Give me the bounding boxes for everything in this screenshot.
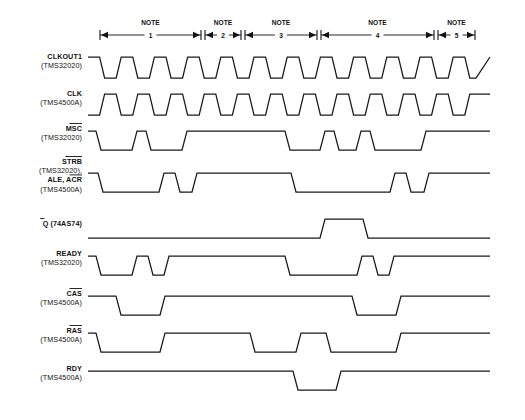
signal-name: CLKOUT1: [47, 52, 82, 61]
signal-device: (TMS4500A): [40, 335, 82, 344]
signal-device: (TMS4500A): [40, 298, 82, 307]
note-number: 4: [376, 32, 380, 39]
note-arrow-right: [309, 32, 316, 38]
note-number: 2: [221, 32, 225, 39]
note-marker-5: NOTE5: [438, 19, 475, 40]
signal-name: READY: [56, 249, 82, 258]
signal-device: (TMS32020): [41, 61, 82, 70]
note-marker-1: NOTE1: [100, 19, 201, 40]
signal-name: RDY: [67, 364, 83, 373]
signal-label-strb: STRB(TMS32020),ALE, ACR(TMS4500A): [39, 157, 83, 194]
note-arrow-left: [439, 32, 446, 38]
note-marker-4: NOTE4: [321, 19, 434, 40]
waveforms-group: [88, 57, 490, 390]
note-arrow-right: [426, 32, 433, 38]
note-arrow-right: [193, 32, 200, 38]
note-arrow-right: [467, 32, 474, 38]
waveform-cas: [88, 296, 490, 315]
signal-name: RAS: [67, 326, 83, 335]
signal-name-alt: ALE, ACR: [48, 175, 83, 184]
note-label: NOTE: [141, 19, 160, 26]
waveform-qbar: [88, 219, 490, 238]
signal-device: (TMS32020): [41, 133, 82, 142]
signal-name: Q (74AS74): [43, 219, 83, 228]
note-marker-2: NOTE2: [205, 19, 241, 40]
signal-label-clkout1: CLKOUT1(TMS32020): [41, 52, 82, 70]
waveform-rdy: [88, 371, 490, 390]
signal-device: (TMS32020): [41, 258, 82, 267]
signal-label-cas: CAS(TMS4500A): [40, 289, 82, 308]
note-label: NOTE: [272, 19, 291, 26]
note-arrow-right: [233, 32, 240, 38]
signal-name: STRB: [62, 157, 82, 166]
waveform-clkout1: [88, 57, 490, 78]
waveform-ready: [88, 256, 490, 275]
waveform-strb: [88, 173, 490, 192]
note-number: 3: [279, 32, 283, 39]
note-label: NOTE: [214, 19, 233, 26]
note-number: 1: [149, 32, 153, 39]
signal-device: (TMS32020),: [39, 166, 82, 175]
signal-name: MSC: [66, 124, 82, 133]
note-arrow-left: [101, 32, 108, 38]
signal-label-ras: RAS(TMS4500A): [40, 326, 82, 345]
note-arrow-left: [322, 32, 329, 38]
signal-device: (TMS4500A): [40, 98, 82, 107]
signal-name: CAS: [67, 289, 83, 298]
signal-label-rdy: RDY(TMS4500A): [40, 364, 82, 382]
note-label: NOTE: [368, 19, 387, 26]
waveform-msc: [88, 131, 490, 150]
note-marker-3: NOTE3: [245, 19, 317, 40]
waveform-clk: [88, 94, 490, 115]
signal-label-msc: MSC(TMS32020): [41, 124, 82, 143]
waveform-ras: [88, 333, 490, 352]
signal-label-qbar: Q (74AS74): [40, 219, 82, 229]
signal-labels-group: CLKOUT1(TMS32020)CLK(TMS4500A)MSC(TMS320…: [39, 52, 83, 382]
signal-name: CLK: [67, 89, 83, 98]
note-arrow-left: [206, 32, 213, 38]
note-label: NOTE: [447, 19, 466, 26]
timing-diagram: NOTE1NOTE2NOTE3NOTE4NOTE5 CLKOUT1(TMS320…: [0, 0, 525, 420]
signal-device: (TMS4500A): [40, 373, 82, 382]
note-number: 5: [455, 32, 459, 39]
signal-label-ready: READY(TMS32020): [41, 249, 82, 267]
note-arrow-left: [246, 32, 253, 38]
note-axis-group: NOTE1NOTE2NOTE3NOTE4NOTE5: [100, 19, 475, 40]
signal-label-clk: CLK(TMS4500A): [40, 89, 82, 107]
signal-device: (TMS4500A): [40, 185, 82, 194]
